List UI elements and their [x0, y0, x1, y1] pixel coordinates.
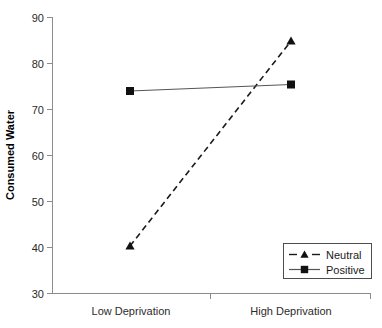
series-neutral [125, 37, 295, 250]
chart-legend: Neutral Positive [284, 244, 372, 279]
series-positive-line [130, 85, 291, 92]
y-tick-label: 70 [32, 104, 44, 116]
line-chart: Consumed Water 90 80 70 60 50 40 30 [0, 0, 382, 328]
y-tick-label: 40 [32, 242, 44, 254]
legend-label-neutral: Neutral [326, 249, 361, 261]
series-positive [126, 81, 295, 96]
y-tick-label: 80 [32, 58, 44, 70]
legend-label-positive: Positive [326, 264, 365, 276]
legend-square-icon [301, 266, 308, 273]
x-tick-label-high-deprivation: High Deprivation [250, 305, 331, 317]
series-neutral-line [130, 41, 291, 246]
data-point-positive-high [287, 81, 295, 89]
y-axis-title-text: Consumed Water [4, 109, 16, 200]
y-tick-label: 50 [32, 196, 44, 208]
y-tick-label: 90 [32, 12, 44, 24]
y-axis-ticks: 90 80 70 60 50 40 30 [32, 12, 53, 300]
y-tick-label: 30 [32, 288, 44, 300]
y-tick-label: 60 [32, 150, 44, 162]
y-axis-title: Consumed Water [4, 109, 16, 200]
x-axis-ticks [211, 294, 371, 300]
x-tick-label-low-deprivation: Low Deprivation [92, 305, 171, 317]
data-point-neutral-high [286, 37, 295, 45]
x-axis-labels: Low Deprivation High Deprivation [92, 305, 332, 317]
chart-container: Consumed Water 90 80 70 60 50 40 30 [0, 0, 382, 328]
data-point-positive-low [126, 87, 134, 95]
